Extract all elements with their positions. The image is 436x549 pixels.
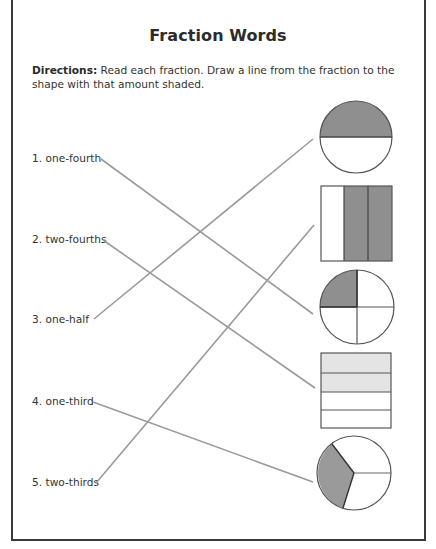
shape-circle-thirds [317,436,391,510]
shape-circle-halves [320,101,392,173]
shape-rect-columns-thirds [321,186,392,261]
shape-circle-quarters [320,270,394,344]
worksheet-art [0,0,436,549]
match-line-two-thirds[interactable] [96,225,314,483]
match-line-one-half[interactable] [94,139,313,319]
match-line-one-fourth[interactable] [101,159,313,314]
matching-lines [93,139,315,483]
shape-rect-rows-fourths [321,353,391,428]
match-line-one-third[interactable] [93,402,313,482]
